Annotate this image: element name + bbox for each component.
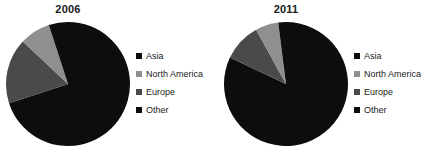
pie-chart-2011	[223, 21, 349, 147]
pie-charts-figure: 2006 Asia North America Europe Other	[0, 0, 436, 155]
chart-title-2006: 2006	[0, 3, 136, 16]
legend-swatch-europe-icon	[354, 89, 360, 95]
legend-label-other: Other	[146, 105, 169, 115]
legend-label-europe: Europe	[146, 87, 175, 97]
legend-item-other[interactable]: Other	[136, 102, 218, 118]
legend-swatch-other-icon	[136, 107, 142, 113]
legend-2006: Asia North America Europe Other	[136, 48, 218, 120]
legend-label-north-america: North America	[364, 69, 421, 79]
pie-svg-2006	[5, 21, 131, 147]
legend-item-asia[interactable]: Asia	[354, 48, 436, 64]
legend-item-other[interactable]: Other	[354, 102, 436, 118]
legend-item-europe[interactable]: Europe	[354, 84, 436, 100]
legend-swatch-asia-icon	[136, 53, 142, 59]
legend-label-asia: Asia	[364, 51, 382, 61]
pie-slice-group-2006	[6, 22, 130, 146]
legend-swatch-other-icon	[354, 107, 360, 113]
legend-item-north-america[interactable]: North America	[136, 66, 218, 82]
legend-label-other: Other	[364, 105, 387, 115]
legend-item-north-america[interactable]: North America	[354, 66, 436, 82]
chart-panel-2006: 2006 Asia North America Europe Other	[0, 0, 218, 155]
legend-2011: Asia North America Europe Other	[354, 48, 436, 120]
pie-chart-2006	[5, 21, 131, 147]
legend-label-north-america: North America	[146, 69, 203, 79]
legend-swatch-north-america-icon	[136, 71, 142, 77]
legend-swatch-asia-icon	[354, 53, 360, 59]
pie-svg-2011	[223, 21, 349, 147]
legend-label-asia: Asia	[146, 51, 164, 61]
legend-swatch-north-america-icon	[354, 71, 360, 77]
chart-panel-2011: 2011 Asia North America Europe Other	[218, 0, 436, 155]
legend-label-europe: Europe	[364, 87, 393, 97]
legend-swatch-europe-icon	[136, 89, 142, 95]
legend-item-asia[interactable]: Asia	[136, 48, 218, 64]
chart-title-2011: 2011	[218, 3, 354, 16]
pie-slice-group-2011	[224, 22, 348, 146]
legend-item-europe[interactable]: Europe	[136, 84, 218, 100]
